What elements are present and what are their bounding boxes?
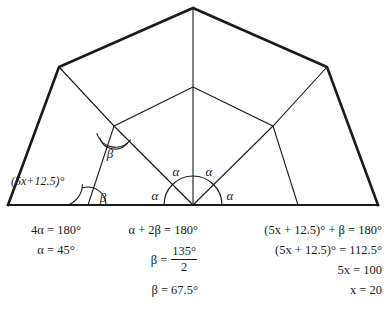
alpha-label-lower-right: α	[227, 188, 235, 203]
fraction-135-over-2: 135° 2	[170, 244, 198, 275]
geometry-figure: α α α α β β (5x+12.5)°	[0, 0, 387, 220]
alpha-label-lower-left: α	[152, 188, 160, 203]
equations-block: 4α = 180° α = 45° α + 2β = 180° β = 135°…	[0, 218, 387, 318]
equation-alpha-2beta-180: α + 2β = 180°	[98, 220, 198, 240]
equation-alpha-45: α = 45°	[14, 240, 98, 260]
equation-x-20: x = 20	[202, 280, 382, 300]
equation-expr-plus-beta-180: (5x + 12.5)° + β = 180°	[202, 220, 382, 240]
equation-beta-fraction: β = 135° 2	[98, 240, 198, 280]
fraction-numerator: 135°	[170, 244, 198, 259]
arc-base-left-expression	[68, 184, 82, 205]
equation-column-beta: α + 2β = 180° β = 135° 2 β = 67.5°	[98, 220, 198, 300]
leg-inner-right-to-base	[273, 126, 298, 205]
equation-5x-100: 5x = 100	[202, 260, 382, 280]
expression-angle-label: (5x+12.5)°	[11, 174, 64, 188]
inner-pentagon-left-edge	[59, 67, 193, 126]
fraction-denominator: 2	[170, 260, 198, 275]
alpha-label-upper-right: α	[206, 164, 214, 179]
inner-pentagon-right-edge	[193, 67, 327, 126]
beta-label-base-left: β	[99, 190, 107, 205]
beta-fraction-lhs: β =	[151, 240, 168, 280]
alpha-label-upper-left: α	[173, 164, 181, 179]
equation-expr-equals-112-5: (5x + 12.5)° = 112.5°	[202, 240, 382, 260]
equation-column-x: (5x + 12.5)° + β = 180° (5x + 12.5)° = 1…	[202, 220, 382, 300]
equation-column-alpha: 4α = 180° α = 45°	[14, 220, 98, 260]
figure-page: α α α α β β (5x+12.5)° 4α = 180° α = 45°…	[0, 0, 387, 318]
equation-beta-67-5: β = 67.5°	[98, 280, 198, 300]
equation-4alpha-180: 4α = 180°	[14, 220, 98, 240]
beta-label-inner-left: β	[106, 146, 114, 161]
